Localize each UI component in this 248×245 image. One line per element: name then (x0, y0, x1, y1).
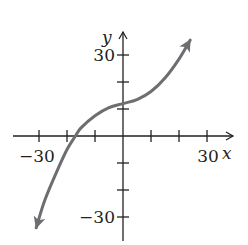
y-axis-label: y (101, 27, 112, 47)
y-tick-label: 30 (93, 45, 115, 65)
x-axis-label: x (222, 143, 232, 163)
y-tick-label: −30 (79, 207, 115, 227)
axes (13, 32, 233, 241)
graph: −303030−30 x y (0, 0, 248, 245)
x-tick-label: 30 (197, 146, 219, 166)
x-tick-label: −30 (19, 146, 55, 166)
curve-line (36, 40, 190, 228)
